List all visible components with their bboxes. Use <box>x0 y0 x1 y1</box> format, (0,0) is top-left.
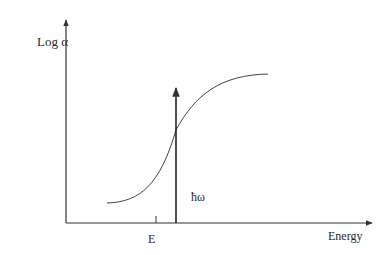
absorption-curve <box>107 74 268 203</box>
tick-label-e: E <box>148 232 155 246</box>
x-axis-label: Energy <box>328 229 362 243</box>
photon-energy-label: ħω <box>191 190 205 204</box>
absorption-diagram: Log α Energy E ħω <box>0 0 386 255</box>
y-axis-label: Log α <box>37 34 68 49</box>
